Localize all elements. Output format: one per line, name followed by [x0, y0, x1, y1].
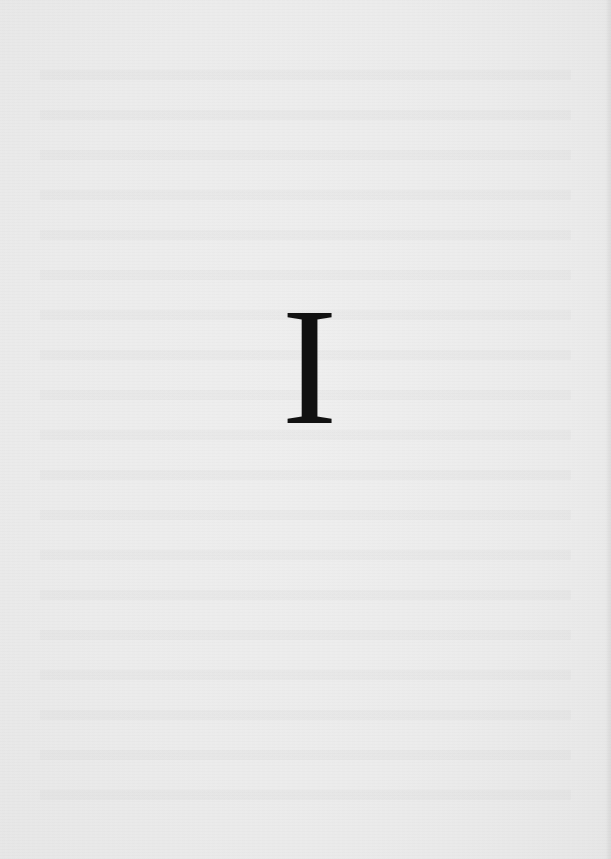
book-page: I: [0, 0, 611, 859]
part-numeral: I: [0, 282, 611, 450]
